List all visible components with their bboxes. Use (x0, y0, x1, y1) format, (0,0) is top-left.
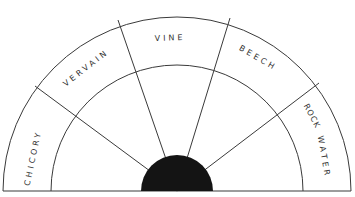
segment-label-water: WATER (316, 135, 332, 179)
segment-chicory: CHICORY (23, 129, 44, 186)
segment-label-rock: ROCK (302, 102, 322, 130)
segment-label-beech: BEECH (237, 44, 278, 73)
central-hub (141, 155, 213, 191)
semicircle-wheel-diagram: CHICORY VERVAIN VINE BEECH ROCK WATER (0, 0, 355, 197)
segment-vine: VINE (154, 33, 185, 43)
segment-label-chicory: CHICORY (23, 129, 44, 186)
segment-label-vine: VINE (154, 33, 185, 43)
segment-label-vervain: VERVAIN (61, 47, 110, 88)
segment-beech: BEECH (237, 44, 278, 73)
segment-vervain: VERVAIN (61, 47, 110, 88)
segment-rock-water: ROCK WATER (302, 102, 332, 179)
